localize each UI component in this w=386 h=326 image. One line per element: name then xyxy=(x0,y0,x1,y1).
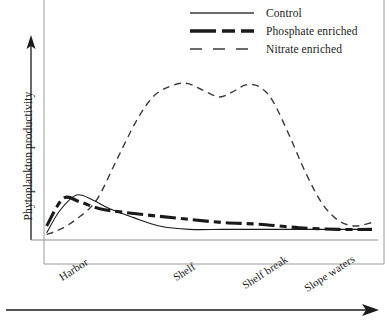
series-phosphate-enriched xyxy=(47,197,372,229)
legend-key-solid-thin xyxy=(186,5,258,21)
legend-label-control: Control xyxy=(258,5,302,21)
series-control xyxy=(47,195,372,233)
legend-item-phosphate-enriched: Phosphate enriched xyxy=(186,22,384,40)
legend-label-nitrate-enriched: Nitrate enriched xyxy=(258,41,342,57)
legend-key-dashed-thin xyxy=(186,41,258,57)
legend-label-phosphate-enriched: Phosphate enriched xyxy=(258,23,358,39)
legend-item-control: Control xyxy=(186,4,384,22)
legend-key-dash-dot-thick xyxy=(186,23,258,39)
x-direction-arrow xyxy=(6,304,379,316)
legend-item-nitrate-enriched: Nitrate enriched xyxy=(186,40,384,58)
legend: Control Phosphate enriched Nitrate enric… xyxy=(186,4,384,58)
y-axis-title: Phytoplankton productivity xyxy=(22,66,34,246)
series-nitrate-enriched xyxy=(47,83,372,234)
figure-phytoplankton-productivity: Control Phosphate enriched Nitrate enric… xyxy=(0,0,386,326)
